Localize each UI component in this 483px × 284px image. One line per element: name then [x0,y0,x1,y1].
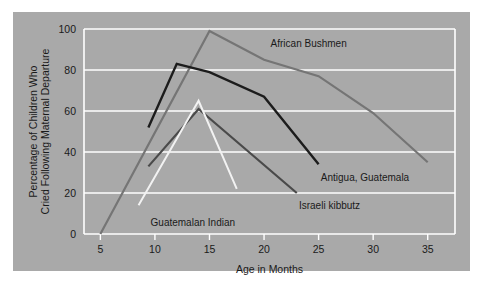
x-tick-label-15: 15 [204,243,216,255]
x-tick-label-25: 25 [313,243,325,255]
y-tick-label-20: 20 [64,187,76,199]
series-label-guatemalan-indian: Guatemalan Indian [151,217,236,228]
line-chart: 020406080100 5101520253035 African Bushm… [0,0,483,284]
series-line-antigua-guatemala [148,64,318,164]
y-axis-title: Percentage of Children Who Cried Followi… [27,48,51,214]
x-tick-label-5: 5 [97,243,103,255]
x-tick-label-35: 35 [422,243,434,255]
tick-marks [100,234,427,240]
x-tick-label-10: 10 [149,243,161,255]
y-axis-tick-labels: 020406080100 [58,23,76,240]
y-tick-label-40: 40 [64,146,76,158]
y-tick-label-0: 0 [70,228,76,240]
y-tick-label-60: 60 [64,105,76,117]
series-line-african-bushmen [100,31,427,234]
x-axis-title: Age in Months [236,263,303,275]
y-axis-title-line-1: Percentage of Children Who [27,65,39,197]
series-lines [100,31,427,234]
y-tick-label-80: 80 [64,64,76,76]
x-tick-label-30: 30 [367,243,379,255]
x-tick-label-20: 20 [258,243,270,255]
x-axis-tick-labels: 5101520253035 [97,243,433,255]
series-label-israeli-kibbutz: Israeli kibbutz [299,200,360,211]
series-label-antigua-guatemala: Antigua, Guatemala [321,172,410,183]
series-label-african-bushmen: African Bushmen [271,38,347,49]
y-axis-title-line-2: Cried Following Maternal Departure [39,48,51,214]
figure-root: 020406080100 5101520253035 African Bushm… [0,0,483,284]
y-tick-label-100: 100 [58,23,76,35]
